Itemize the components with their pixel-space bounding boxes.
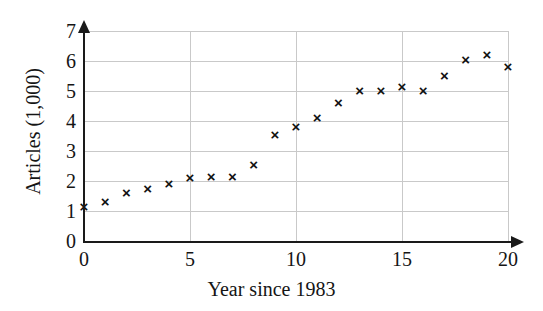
- data-point-marker: ×: [162, 177, 176, 191]
- y-axis-tick-label: 5: [52, 81, 76, 101]
- data-point-marker: ×: [459, 53, 473, 67]
- data-point-marker: ×: [247, 158, 261, 172]
- y-axis-tick-label: 4: [52, 111, 76, 131]
- x-axis-line: [83, 241, 513, 243]
- data-point-marker: ×: [416, 84, 430, 98]
- y-axis-tick-label: 6: [52, 51, 76, 71]
- data-point-marker: ×: [119, 186, 133, 200]
- data-point-marker: ×: [331, 96, 345, 110]
- x-axis-tick-labels: 05101520: [0, 249, 543, 275]
- y-axis-arrowhead: [78, 20, 90, 33]
- x-axis-arrowhead: [511, 236, 524, 248]
- x-axis-tick-label: 15: [382, 249, 422, 269]
- data-point-marker: ×: [225, 170, 239, 184]
- y-axis-title: Articles (1,000): [22, 17, 45, 247]
- gridline-vertical: [296, 31, 297, 241]
- data-point-marker: ×: [98, 195, 112, 209]
- data-point-marker: ×: [268, 128, 282, 142]
- y-axis-tick-label: 7: [52, 21, 76, 41]
- data-point-marker: ×: [310, 111, 324, 125]
- data-point-marker: ×: [374, 84, 388, 98]
- y-axis-tick-label: 3: [52, 141, 76, 161]
- data-point-marker: ×: [480, 48, 494, 62]
- data-point-marker: ×: [353, 84, 367, 98]
- x-axis-tick-label: 0: [64, 249, 104, 269]
- data-point-marker: ×: [437, 69, 451, 83]
- scatter-chart-figure: ××××××××××××××××××××× 01234567 05101520 …: [0, 0, 543, 311]
- y-axis-tick-label: 2: [52, 171, 76, 191]
- x-axis-title: Year since 1983: [0, 278, 543, 301]
- x-axis-tick-label: 10: [276, 249, 316, 269]
- x-axis-tick-label: 5: [170, 249, 210, 269]
- gridline-vertical: [190, 31, 191, 241]
- y-axis-tick-label: 1: [52, 201, 76, 221]
- data-point-marker: ×: [289, 120, 303, 134]
- gridline-vertical: [402, 31, 403, 241]
- data-point-marker: ×: [183, 171, 197, 185]
- data-point-marker: ×: [141, 182, 155, 196]
- x-axis-tick-label: 20: [488, 249, 528, 269]
- data-point-marker: ×: [501, 60, 515, 74]
- data-point-marker: ×: [395, 80, 409, 94]
- y-axis-line: [83, 31, 85, 243]
- data-point-marker: ×: [204, 170, 218, 184]
- y-axis-tick-label: 0: [52, 231, 76, 251]
- plot-area: ×××××××××××××××××××××: [84, 31, 508, 241]
